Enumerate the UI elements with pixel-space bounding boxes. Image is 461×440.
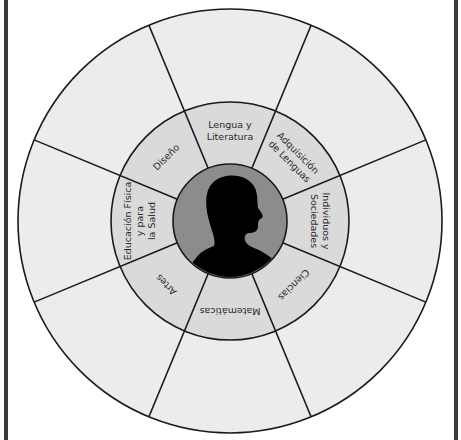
subject-label-line: la Salud xyxy=(146,202,157,240)
subject-label-line: Sociedades xyxy=(309,194,320,248)
subject-label-line: Matemáticas xyxy=(199,306,260,317)
subject-label-line: y para xyxy=(134,206,145,236)
subject-label-individuos: Individuos ySociedades xyxy=(309,192,332,250)
subject-label-line: Educación Física xyxy=(122,182,133,261)
subject-label-lengua: Lengua yLiteratura xyxy=(207,119,254,142)
curriculum-wheel: Lengua yLiteraturaAdquisiciónde LenguasI… xyxy=(0,0,461,440)
subject-label-line: Literatura xyxy=(207,131,254,142)
subject-label-matematicas: Matemáticas xyxy=(199,306,260,317)
subject-label-line: Lengua y xyxy=(208,119,252,130)
subject-label-line: Individuos y xyxy=(321,192,332,250)
